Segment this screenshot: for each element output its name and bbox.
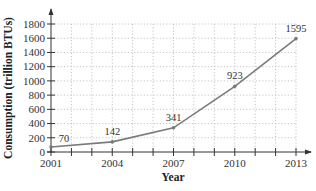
y-tick-label: 600 [29,103,46,115]
data-label: 70 [59,133,70,144]
y-tick-label: 800 [29,89,46,101]
data-point-marker [110,140,114,144]
y-tick-label: 1400 [23,46,46,58]
y-tick-label: 1200 [23,60,46,72]
data-label: 341 [166,112,182,123]
line-chart: 0200400600800100012001400160018002001200… [0,0,316,191]
y-axis-title: Consumption (trillion BTUs) [2,17,15,159]
data-point-marker [294,37,298,41]
x-axis-title: Year [162,171,185,183]
data-label: 923 [227,70,243,81]
x-tick-label: 2007 [163,157,186,169]
data-label: 142 [104,126,120,137]
data-point-marker [233,85,237,89]
y-tick-label: 1000 [23,75,46,87]
y-axis-arrow-icon [49,8,54,15]
x-tick-label: 2010 [224,157,247,169]
data-point-marker [49,145,53,149]
grid-lines [51,24,296,152]
axis-ticks [47,24,296,156]
x-tick-label: 2001 [40,157,62,169]
y-tick-label: 0 [40,146,46,158]
data-point-marker [172,126,176,130]
y-tick-label: 400 [29,117,46,129]
x-tick-label: 2004 [101,157,124,169]
x-tick-label: 2013 [285,157,308,169]
y-tick-label: 200 [29,132,46,144]
x-axis-arrow-icon [305,150,312,155]
y-tick-label: 1600 [23,32,46,44]
data-label: 1595 [286,23,307,34]
y-tick-label: 1800 [23,18,46,30]
